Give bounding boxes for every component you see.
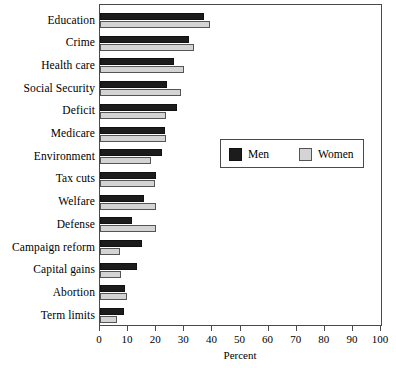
bar-women-campaign-reform xyxy=(100,248,120,255)
x-tick-label-30: 30 xyxy=(168,333,198,345)
bar-men-crime xyxy=(100,36,189,43)
category-label-term-limits: Term limits xyxy=(0,310,95,322)
bar-women-education xyxy=(100,21,210,28)
category-label-social-security: Social Security xyxy=(0,83,95,95)
x-tick-50 xyxy=(240,326,241,331)
bar-men-health-care xyxy=(100,58,174,65)
x-tick-label-90: 90 xyxy=(337,333,367,345)
bar-women-term-limits xyxy=(100,316,117,323)
x-tick-label-100: 100 xyxy=(365,333,395,345)
x-tick-label-0: 0 xyxy=(84,333,114,345)
bar-women-environment xyxy=(100,157,151,164)
bar-men-abortion xyxy=(100,285,125,292)
category-label-capital-gains: Capital gains xyxy=(0,264,95,276)
x-tick-20 xyxy=(155,326,156,331)
category-label-welfare: Welfare xyxy=(0,196,95,208)
legend-swatch-men-icon xyxy=(229,148,242,161)
bar-chart: EducationCrimeHealth careSocial Security… xyxy=(0,0,396,368)
bar-men-medicare xyxy=(100,127,165,134)
category-label-crime: Crime xyxy=(0,37,95,49)
bar-men-social-security xyxy=(100,81,167,88)
x-tick-0 xyxy=(99,326,100,331)
x-tick-80 xyxy=(324,326,325,331)
x-tick-90 xyxy=(352,326,353,331)
bar-men-defense xyxy=(100,217,132,224)
x-tick-label-50: 50 xyxy=(225,333,255,345)
x-tick-label-10: 10 xyxy=(112,333,142,345)
category-label-abortion: Abortion xyxy=(0,287,95,299)
bar-women-health-care xyxy=(100,66,184,73)
x-tick-label-60: 60 xyxy=(253,333,283,345)
x-axis-ticks xyxy=(99,326,382,332)
category-label-medicare: Medicare xyxy=(0,128,95,140)
legend-label-men: Men xyxy=(248,148,269,161)
bar-men-deficit xyxy=(100,104,177,111)
legend-entry-men: Men xyxy=(229,147,269,161)
bar-men-capital-gains xyxy=(100,263,137,270)
bar-men-campaign-reform xyxy=(100,240,142,247)
x-tick-100 xyxy=(380,326,381,331)
x-tick-label-40: 40 xyxy=(196,333,226,345)
bar-men-welfare xyxy=(100,195,144,202)
x-tick-30 xyxy=(183,326,184,331)
x-tick-60 xyxy=(268,326,269,331)
bar-men-education xyxy=(100,13,204,20)
bar-women-welfare xyxy=(100,203,156,210)
category-label-campaign-reform: Campaign reform xyxy=(0,242,95,254)
x-tick-label-70: 70 xyxy=(281,333,311,345)
legend-label-women: Women xyxy=(318,148,353,161)
legend-entry-women: Women xyxy=(299,147,353,161)
category-label-education: Education xyxy=(0,15,95,27)
bar-women-defense xyxy=(100,225,156,232)
bar-women-deficit xyxy=(100,112,166,119)
x-tick-label-80: 80 xyxy=(309,333,339,345)
category-label-health-care: Health care xyxy=(0,60,95,72)
chart-legend: Men Women xyxy=(220,139,364,168)
legend-swatch-women-icon xyxy=(299,148,312,161)
category-label-deficit: Deficit xyxy=(0,105,95,117)
category-label-environment: Environment xyxy=(0,151,95,163)
category-label-tax-cuts: Tax cuts xyxy=(0,173,95,185)
x-tick-10 xyxy=(127,326,128,331)
bar-men-tax-cuts xyxy=(100,172,156,179)
x-axis-tick-labels: 0102030405060708090100 xyxy=(0,333,396,347)
bar-women-capital-gains xyxy=(100,271,121,278)
category-axis-labels: EducationCrimeHealth careSocial Security… xyxy=(0,4,95,326)
bar-women-abortion xyxy=(100,293,127,300)
bar-women-tax-cuts xyxy=(100,180,155,187)
x-tick-label-20: 20 xyxy=(140,333,170,345)
bar-men-term-limits xyxy=(100,308,124,315)
bar-women-social-security xyxy=(100,89,181,96)
bar-women-crime xyxy=(100,44,194,51)
bar-women-medicare xyxy=(100,135,166,142)
x-axis-title-text: Percent xyxy=(224,349,257,361)
x-tick-40 xyxy=(211,326,212,331)
bar-men-environment xyxy=(100,149,162,156)
category-label-defense: Defense xyxy=(0,219,95,231)
x-tick-70 xyxy=(296,326,297,331)
